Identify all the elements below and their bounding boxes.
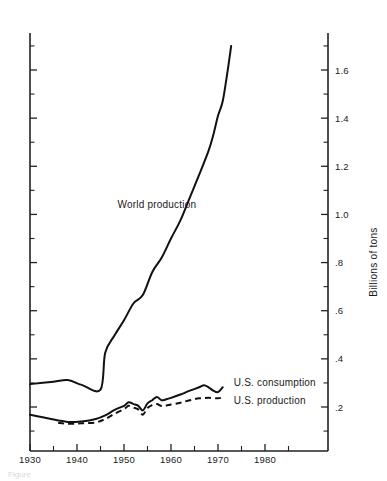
y-tick-label-.6: .6 [335,305,343,316]
y-axis-tick-labels: .2.4.6.81.01.21.41.6 [335,65,349,413]
x-tick-label-1940: 1940 [66,454,88,465]
chart-series [30,46,231,424]
y-tick-label-.8: .8 [335,257,343,268]
y-tick-label-1.4: 1.4 [335,113,349,124]
series-line-u-s-consumption [30,385,223,422]
x-tick-label-1930: 1930 [19,454,41,465]
x-tick-label-1950: 1950 [113,454,135,465]
x-tick-label-1980: 1980 [254,454,276,465]
chart-figure: 193019401950196019701980 .2.4.6.81.01.21… [0,0,387,481]
series-line-world-production [30,46,231,391]
series-label-world-production: World production [118,199,197,210]
series-annotations: World productionU.S. consumptionU.S. pro… [118,199,316,405]
y-tick-label-1.0: 1.0 [335,209,349,220]
figure-caption: Figure [8,470,31,479]
x-tick-label-1960: 1960 [160,454,182,465]
x-axis-tick-labels: 193019401950196019701980 [19,454,276,465]
x-tick-label-1970: 1970 [207,454,229,465]
series-label-u-s-production: U.S. production [234,395,306,406]
series-label-u-s-consumption: U.S. consumption [234,377,316,388]
y-tick-label-1.2: 1.2 [335,161,349,172]
y-tick-label-1.6: 1.6 [335,65,349,76]
series-line-u-s-production [58,397,223,423]
y-tick-label-.2: .2 [335,402,343,413]
y-axis-title: Billions of tons [368,227,379,296]
line-chart: 193019401950196019701980 .2.4.6.81.01.21… [0,0,387,481]
y-tick-label-.4: .4 [335,353,343,364]
